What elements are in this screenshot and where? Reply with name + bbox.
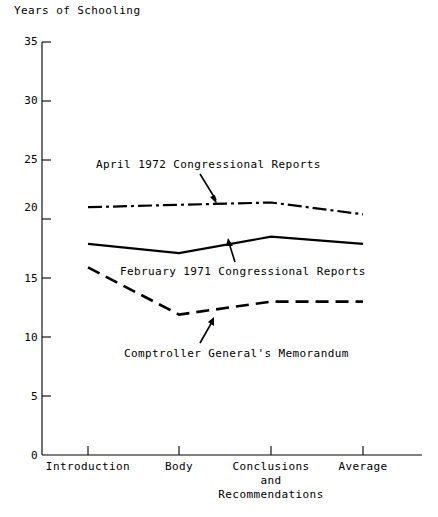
line-chart: Years of Schooling 35 30 25 20 15 10 5 0… [0,0,438,517]
chart-canvas [0,0,438,517]
axis-lines [42,42,422,455]
annotation-arrow-april [200,174,217,204]
series-line-comptroller [88,267,363,314]
series-line-april-1972 [88,203,363,215]
annotation-arrow-february [226,238,235,262]
y-axis-ticks [42,42,51,396]
x-axis-ticks [88,446,363,455]
series-line-february-1971 [88,237,363,254]
annotation-arrow-comptroller [200,317,214,343]
